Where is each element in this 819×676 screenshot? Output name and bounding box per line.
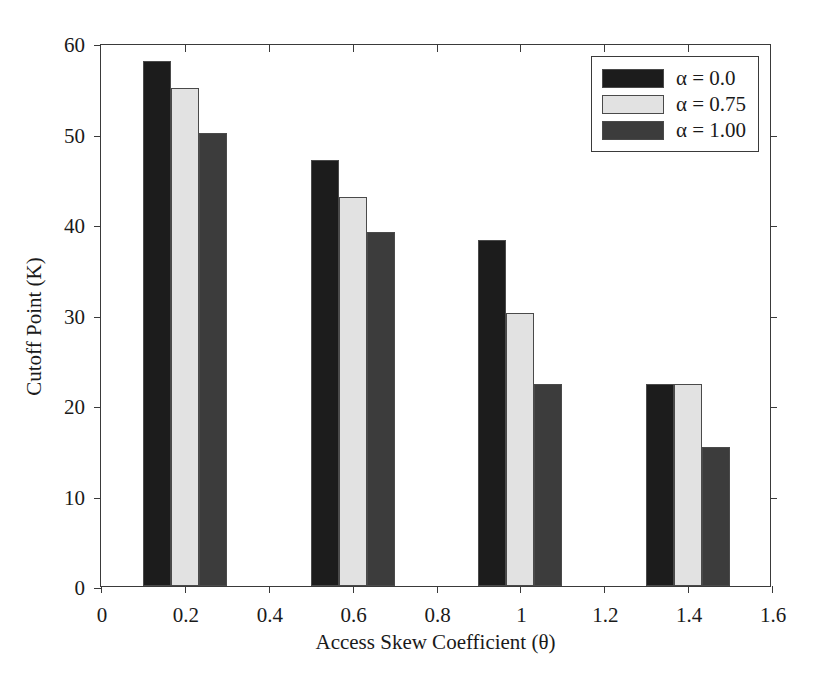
x-axis-tick-top: [437, 45, 438, 52]
x-axis-title: Access Skew Coefficient (θ): [100, 632, 771, 653]
bar-chart-figure: 010203040506000.20.40.60.811.21.41.6 Acc…: [0, 0, 819, 676]
y-axis-tick: 0: [94, 588, 101, 589]
bar: [367, 232, 395, 586]
bar: [702, 447, 730, 586]
y-axis-tick-label: 60: [64, 35, 85, 56]
x-axis-tick-top: [269, 45, 270, 52]
legend-swatch-icon: [602, 95, 664, 114]
bar: [311, 160, 339, 586]
x-axis-tick: 0.4: [269, 586, 270, 593]
x-axis-tick-top: [688, 45, 689, 52]
bar: [534, 384, 562, 586]
y-axis-tick-right: [770, 226, 777, 227]
y-axis-tick: 40: [94, 226, 101, 227]
y-axis-tick: 20: [94, 407, 101, 408]
bar: [674, 384, 702, 586]
bar: [478, 240, 506, 586]
y-axis-tick: 50: [94, 136, 101, 137]
x-axis-tick-label: 1.6: [760, 605, 786, 626]
y-axis-tick-label: 50: [64, 126, 85, 147]
legend-item: α = 0.0: [602, 65, 746, 91]
y-axis-tick-right: [770, 317, 777, 318]
x-axis-tick-top: [520, 45, 521, 52]
y-axis-tick-label: 20: [64, 397, 85, 418]
x-axis-tick: 1.6: [772, 586, 773, 593]
x-axis-tick-label: 1.4: [676, 605, 702, 626]
bar: [646, 384, 674, 586]
x-axis-tick-label: 0.6: [341, 605, 367, 626]
legend-item: α = 1.00: [602, 117, 746, 143]
y-axis-tick-label: 10: [64, 488, 85, 509]
x-axis-tick: 0: [101, 586, 102, 593]
legend-item-label: α = 0.75: [676, 94, 746, 115]
x-axis-tick-top: [185, 45, 186, 52]
x-axis-tick-label: 0.2: [173, 605, 199, 626]
x-axis-tick: 1: [520, 586, 521, 593]
x-axis-tick: 1.2: [604, 586, 605, 593]
bar: [143, 61, 171, 586]
y-axis-tick: 30: [94, 317, 101, 318]
y-axis-tick-label: 40: [64, 216, 85, 237]
y-axis-tick: 60: [94, 45, 101, 46]
x-axis-tick-top: [353, 45, 354, 52]
x-axis-tick-label: 1: [516, 605, 527, 626]
x-axis-tick: 0.6: [353, 586, 354, 593]
legend-swatch-icon: [602, 121, 664, 140]
legend-item-label: α = 1.00: [676, 120, 746, 141]
x-axis-tick: 0.8: [437, 586, 438, 593]
y-axis-tick-label: 30: [64, 307, 85, 328]
x-axis-tick: 1.4: [688, 586, 689, 593]
chart-legend: α = 0.0α = 0.75α = 1.00: [591, 56, 759, 152]
y-axis-tick: 10: [94, 498, 101, 499]
legend-swatch-icon: [602, 69, 664, 88]
x-axis-tick-label: 1.2: [592, 605, 618, 626]
y-axis-tick-right: [770, 136, 777, 137]
bar: [506, 313, 534, 586]
y-axis-tick-label: 0: [75, 578, 86, 599]
legend-item: α = 0.75: [602, 91, 746, 117]
x-axis-tick-label: 0.8: [424, 605, 450, 626]
x-axis-tick-label: 0: [97, 605, 108, 626]
legend-item-label: α = 0.0: [676, 68, 736, 89]
bar: [199, 133, 227, 586]
x-axis-tick-label: 0.4: [257, 605, 283, 626]
bar: [171, 88, 199, 586]
bar: [339, 197, 367, 586]
y-axis-tick-right: [770, 407, 777, 408]
y-axis-tick-right: [770, 498, 777, 499]
y-axis-title: Cutoff Point (K): [24, 127, 45, 527]
x-axis-tick-top: [604, 45, 605, 52]
x-axis-tick: 0.2: [185, 586, 186, 593]
